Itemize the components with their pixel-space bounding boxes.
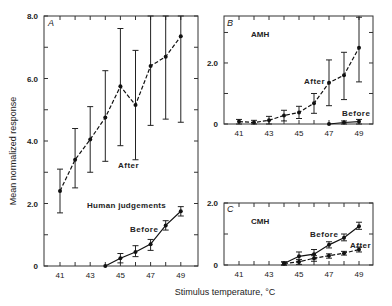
data-point — [327, 122, 331, 126]
panel-a-title: Human judgements — [87, 201, 166, 210]
data-point — [357, 46, 361, 50]
data-point — [179, 209, 183, 213]
x-axis-label: Stimulus temperature, °C — [150, 287, 300, 297]
x-tick-label: 47 — [325, 270, 334, 279]
x-tick-label: 43 — [265, 129, 274, 138]
data-point — [297, 254, 301, 258]
data-point — [327, 81, 331, 85]
data-point — [327, 243, 331, 247]
panel-b-before-label: Before — [342, 109, 370, 118]
y-tick-label: 8.0 — [27, 12, 39, 21]
data-point — [134, 250, 138, 254]
data-point — [327, 254, 331, 258]
y-tick-label: 2.0 — [207, 199, 219, 208]
series-line-before — [105, 211, 181, 266]
data-point — [297, 260, 301, 264]
x-tick-label: 41 — [56, 271, 65, 280]
data-point — [88, 137, 92, 141]
panel-c-title: CMH — [251, 217, 269, 226]
data-point — [149, 242, 153, 246]
data-point — [297, 110, 301, 114]
data-point — [357, 120, 361, 124]
data-point — [134, 103, 138, 107]
figure-canvas: 414345474902.04.06.08.0414345474902.0414… — [0, 0, 392, 306]
data-point — [118, 256, 122, 260]
data-point — [357, 224, 361, 228]
data-point — [164, 223, 168, 227]
data-point — [179, 34, 183, 38]
data-point — [342, 120, 346, 124]
data-point — [312, 101, 316, 105]
panel-c-before-label: Before — [310, 230, 338, 239]
y-tick-label: 0 — [214, 120, 219, 129]
data-point — [282, 113, 286, 117]
data-point — [252, 120, 256, 124]
x-tick-label: 41 — [235, 129, 244, 138]
data-point — [103, 116, 107, 120]
data-point — [164, 55, 168, 59]
y-tick-label: 4.0 — [27, 137, 39, 146]
panel-b-after-label: After — [304, 77, 325, 86]
panel-c-letter: C — [227, 204, 234, 214]
x-tick-label: 43 — [265, 270, 274, 279]
x-tick-label: 45 — [116, 271, 125, 280]
panel-c-after-label: After — [350, 241, 371, 250]
data-point — [342, 73, 346, 77]
data-point — [103, 264, 107, 268]
data-point — [342, 251, 346, 255]
x-tick-label: 45 — [295, 270, 304, 279]
x-tick-label: 47 — [146, 271, 155, 280]
x-tick-label: 49 — [355, 270, 364, 279]
data-point — [58, 189, 62, 193]
data-point — [149, 64, 153, 68]
data-point — [312, 256, 316, 260]
y-tick-label: 6.0 — [27, 75, 39, 84]
panel-a-frame — [44, 16, 198, 266]
x-tick-label: 41 — [235, 270, 244, 279]
x-tick-label: 49 — [176, 271, 185, 280]
panel-a-before-label: Before — [130, 225, 158, 234]
panel-b-letter: B — [227, 18, 233, 28]
panel-a-after-label: After — [118, 161, 139, 170]
panel-b-title: AMH — [251, 30, 269, 39]
data-point — [118, 84, 122, 88]
x-tick-label: 45 — [295, 129, 304, 138]
series-line-after — [284, 250, 359, 264]
panel-a-letter: A — [48, 18, 54, 28]
y-axis-label: Mean normalized response — [8, 76, 18, 226]
x-tick-label: 49 — [355, 129, 364, 138]
x-tick-label: 43 — [86, 271, 95, 280]
y-tick-label: 2.0 — [27, 200, 39, 209]
data-point — [267, 118, 271, 122]
y-tick-label: 0 — [214, 261, 219, 270]
y-tick-label: 0 — [34, 262, 39, 271]
data-point — [73, 158, 77, 162]
data-point — [342, 236, 346, 240]
x-tick-label: 47 — [325, 129, 334, 138]
data-point — [282, 261, 286, 265]
data-point — [237, 120, 241, 124]
y-tick-label: 2.0 — [207, 59, 219, 68]
